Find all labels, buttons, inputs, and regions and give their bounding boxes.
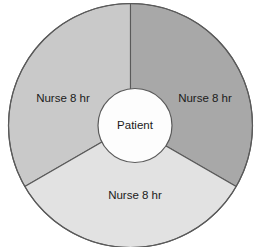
- segment-bottom-label: Nurse 8 hr: [108, 189, 162, 201]
- donut-chart: Nurse 8 hr Nurse 8 hr Nurse 8 hr Patient: [0, 0, 264, 247]
- nursing-coverage-diagram: Nurse 8 hr Nurse 8 hr Nurse 8 hr Patient: [0, 0, 264, 247]
- segment-left-label: Nurse 8 hr: [36, 92, 90, 104]
- center-patient-label: Patient: [117, 119, 154, 131]
- segment-right-label: Nurse 8 hr: [178, 92, 232, 104]
